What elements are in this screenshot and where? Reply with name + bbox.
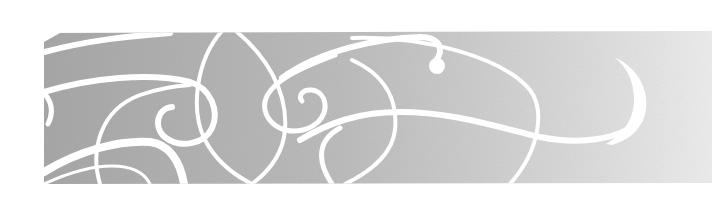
swirl-artwork <box>0 0 712 210</box>
decorative-banner <box>0 0 712 210</box>
swirl-dot-ornament <box>429 58 445 74</box>
